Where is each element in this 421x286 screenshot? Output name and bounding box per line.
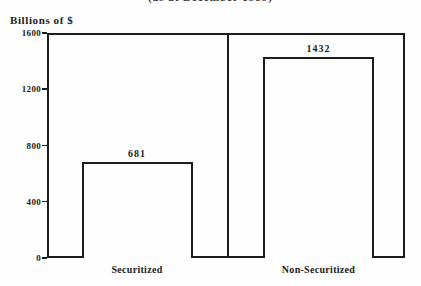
y-tick-label: 0 <box>2 253 41 263</box>
y-tick-label: 1600 <box>2 28 41 38</box>
x-category-label: Non-Securitized <box>282 264 355 275</box>
y-axis-title: Billions of $ <box>10 14 73 26</box>
y-tick-label: 800 <box>2 141 41 151</box>
y-tick-mark <box>42 257 47 259</box>
category-divider-line <box>227 35 229 256</box>
y-tick-label: 1200 <box>2 84 41 94</box>
y-tick-mark <box>42 88 47 90</box>
y-tick-mark <box>42 145 47 147</box>
bar-chart-figure: (as at December 1989) Billions of $ 0400… <box>0 0 421 286</box>
x-category-label: Securitized <box>111 264 162 275</box>
y-tick-mark <box>42 32 47 34</box>
bar-value-label: 681 <box>128 148 146 159</box>
bar-securitized <box>82 162 193 258</box>
bar-value-label: 1432 <box>307 43 331 54</box>
y-tick-label: 400 <box>2 197 41 207</box>
bar-non-securitized <box>263 57 374 258</box>
figure-title-clipped: (as at December 1989) <box>0 0 421 3</box>
y-tick-mark <box>42 201 47 203</box>
